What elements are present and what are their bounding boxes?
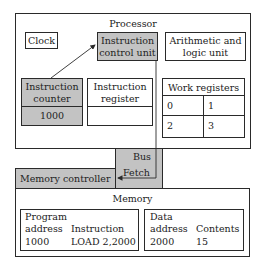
connector-arrows (0, 0, 263, 268)
counter-to-icu-arrow-icon (51, 45, 95, 78)
fetch-arrow-icon (118, 61, 156, 178)
